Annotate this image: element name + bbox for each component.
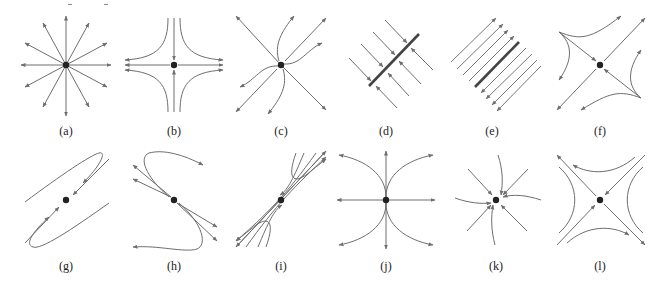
panel-label: (k) — [441, 259, 551, 274]
panel-j: (j) — [331, 145, 441, 280]
panel-label: (b) — [119, 124, 229, 139]
narrow-saddle-portrait — [226, 145, 336, 255]
panel-l: (l) — [545, 145, 655, 280]
fixed-point — [278, 197, 284, 203]
diagonal-saddle-portrait — [545, 10, 655, 120]
fixed-point-line — [475, 42, 519, 87]
fixed-point — [171, 197, 177, 203]
star-source-portrait — [11, 10, 121, 120]
unstable-node-vertical-portrait — [331, 145, 441, 255]
panel-label: (h) — [119, 259, 229, 274]
top-bracket-marks — [68, 0, 112, 5]
fixed-point — [597, 197, 603, 203]
panel-label: (a) — [11, 124, 121, 139]
standard-saddle-portrait — [545, 145, 655, 255]
fixed-point — [597, 62, 603, 68]
panel-label: (l) — [545, 259, 655, 274]
fixed-point — [171, 62, 177, 68]
panel-k: (k) — [441, 145, 551, 280]
unstable-node-portrait — [226, 10, 336, 120]
panel-h: (h) — [119, 145, 229, 280]
panel-g: (g) — [11, 145, 121, 280]
panel-a: (a) — [11, 10, 121, 145]
panel-f: (f) — [545, 10, 655, 145]
bracket-mark-right — [104, 0, 108, 5]
line-fixed-points-portrait — [331, 10, 441, 120]
panel-c: (c) — [226, 10, 336, 145]
panel-d: (d) — [331, 10, 441, 145]
fixed-point — [493, 197, 499, 203]
shear-flow-portrait — [437, 10, 547, 120]
saddle-axes-portrait — [119, 10, 229, 120]
panel-i: (i) — [226, 145, 336, 280]
fixed-point — [63, 62, 69, 68]
panel-b: (b) — [119, 10, 229, 145]
curved-saddle-portrait — [119, 145, 229, 255]
bracket-mark-left — [68, 0, 72, 5]
panel-label: (i) — [226, 259, 336, 274]
panel-label: (e) — [437, 124, 547, 139]
panel-label: (g) — [11, 259, 121, 274]
fixed-point — [278, 62, 284, 68]
panel-e: (e) — [437, 10, 547, 145]
panel-label: (j) — [331, 259, 441, 274]
elongated-saddle-portrait — [11, 145, 121, 255]
panel-label: (c) — [226, 124, 336, 139]
panel-label: (f) — [545, 124, 655, 139]
fixed-point — [383, 197, 389, 203]
fixed-point — [63, 197, 69, 203]
panel-label: (d) — [331, 124, 441, 139]
stable-node-portrait — [441, 145, 551, 255]
